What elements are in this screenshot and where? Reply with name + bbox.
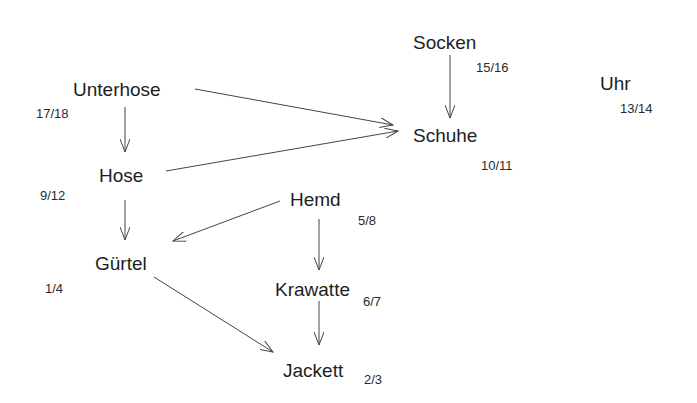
edge-unterhose-schuhe [195,89,393,125]
time-krawatte: 6/7 [363,295,381,308]
time-unterhose: 17/18 [36,107,69,120]
node-unterhose: Unterhose [73,80,161,99]
node-guertel: Gürtel [95,254,147,273]
time-schuhe: 10/11 [481,159,513,172]
edge-hemd-guertel [173,201,280,241]
time-hemd: 5/8 [358,214,376,227]
edge-hose-schuhe [166,131,398,171]
node-jackett: Jackett [283,361,343,380]
time-uhr: 13/14 [620,102,653,115]
edge-guertel-jackett [154,277,273,352]
node-uhr: Uhr [600,74,631,93]
time-jackett: 2/3 [364,373,382,386]
node-hose: Hose [99,166,143,185]
node-hemd: Hemd [290,190,341,209]
edges-layer [0,0,697,403]
node-socken: Socken [413,33,476,52]
node-schuhe: Schuhe [413,126,477,145]
node-krawatte: Krawatte [275,280,350,299]
time-hose: 9/12 [40,189,65,202]
time-guertel: 1/4 [45,282,63,295]
time-socken: 15/16 [476,61,509,74]
